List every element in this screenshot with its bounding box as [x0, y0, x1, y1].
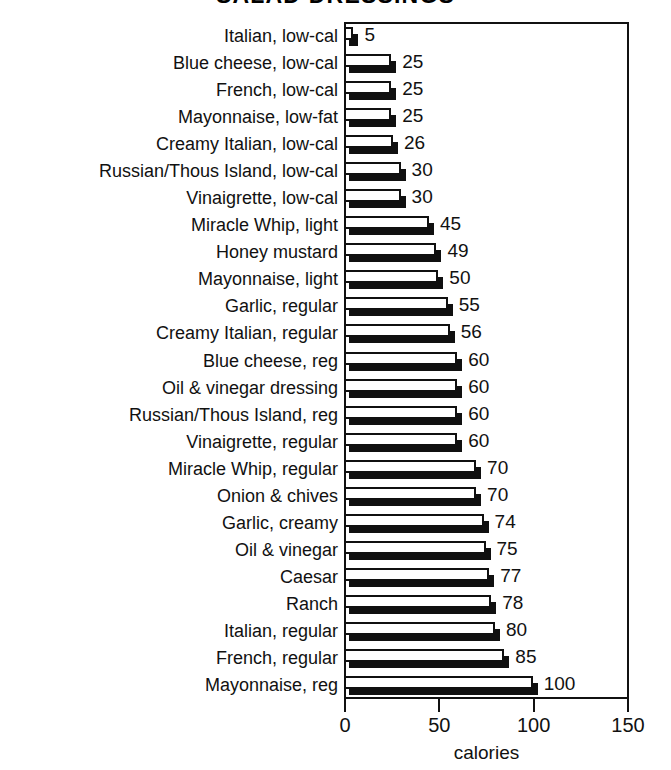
- chart-title: SALAD DRESSINGS: [0, 0, 671, 9]
- category-label: Italian, low-cal: [0, 27, 338, 45]
- bar-row: 60: [344, 406, 629, 427]
- bar-face: [344, 433, 457, 446]
- bar-face: [344, 406, 457, 419]
- bar-face: [344, 541, 486, 554]
- bar-value-label: 60: [468, 404, 489, 424]
- x-axis: calories 050100150: [344, 699, 629, 769]
- bar-row: 5: [344, 27, 629, 48]
- x-tick: [438, 699, 440, 712]
- bar-value-label: 85: [515, 647, 536, 667]
- category-label: Mayonnaise, reg: [0, 676, 338, 694]
- bar-row: 100: [344, 676, 629, 697]
- bar-face: [344, 514, 484, 527]
- bar-face: [344, 135, 393, 148]
- bar-face: [344, 108, 391, 121]
- bar-face: [344, 379, 457, 392]
- bar-face: [344, 676, 533, 689]
- x-tick: [344, 699, 346, 712]
- bars-layer: 5252525263030454950555660606060707074757…: [344, 22, 629, 699]
- x-axis-title: calories: [344, 742, 629, 764]
- bar-row: 60: [344, 352, 629, 373]
- bar-face: [344, 595, 491, 608]
- bar-face: [344, 27, 353, 40]
- bar-face: [344, 243, 436, 256]
- bar-row: 60: [344, 379, 629, 400]
- bar-row: 78: [344, 595, 629, 616]
- bar-face: [344, 568, 489, 581]
- category-axis-labels: Italian, low-calBlue cheese, low-calFren…: [0, 22, 338, 699]
- x-tick-label: 150: [611, 714, 644, 737]
- bar-row: 56: [344, 324, 629, 345]
- category-label: Ranch: [0, 595, 338, 613]
- bar-row: 30: [344, 162, 629, 183]
- category-label: Mayonnaise, light: [0, 270, 338, 288]
- category-label: Honey mustard: [0, 243, 338, 261]
- bar-value-label: 50: [449, 268, 470, 288]
- bar-row: 80: [344, 622, 629, 643]
- bar-row: 50: [344, 270, 629, 291]
- x-tick-label: 0: [339, 714, 350, 737]
- category-label: Onion & chives: [0, 487, 338, 505]
- category-label: Italian, regular: [0, 622, 338, 640]
- bar-face: [344, 649, 504, 662]
- bar-row: 70: [344, 460, 629, 481]
- bar-value-label: 25: [402, 79, 423, 99]
- bar-value-label: 26: [404, 133, 425, 153]
- category-label: Oil & vinegar: [0, 541, 338, 559]
- category-label: French, regular: [0, 649, 338, 667]
- category-label: Garlic, creamy: [0, 514, 338, 532]
- category-label: Vinaigrette, regular: [0, 433, 338, 451]
- bar-face: [344, 460, 476, 473]
- category-label: Creamy Italian, regular: [0, 324, 338, 342]
- bar-row: 60: [344, 433, 629, 454]
- bar-face: [344, 297, 448, 310]
- bar-row: 55: [344, 297, 629, 318]
- bar-row: 25: [344, 54, 629, 75]
- bar-face: [344, 324, 450, 337]
- bar-value-label: 78: [502, 593, 523, 613]
- category-label: Miracle Whip, light: [0, 216, 338, 234]
- bar-face: [344, 216, 429, 229]
- bar-value-label: 75: [497, 539, 518, 559]
- bar-value-label: 25: [402, 106, 423, 126]
- category-label: Russian/Thous Island, low-cal: [0, 162, 338, 180]
- bar-face: [344, 189, 401, 202]
- category-label: Caesar: [0, 568, 338, 586]
- bar-value-label: 100: [544, 674, 576, 694]
- bar-face: [344, 622, 495, 635]
- category-label: Creamy Italian, low-cal: [0, 135, 338, 153]
- bar-row: 30: [344, 189, 629, 210]
- bar-row: 25: [344, 108, 629, 129]
- category-label: Blue cheese, reg: [0, 352, 338, 370]
- x-tick-label: 100: [517, 714, 550, 737]
- x-tick: [627, 699, 629, 712]
- category-label: Vinaigrette, low-cal: [0, 189, 338, 207]
- bar-face: [344, 81, 391, 94]
- bar-value-label: 56: [461, 322, 482, 342]
- chart-page: SALAD DRESSINGS Italian, low-calBlue che…: [0, 0, 671, 770]
- bar-value-label: 49: [447, 241, 468, 261]
- x-tick-label: 50: [428, 714, 450, 737]
- bar-row: 70: [344, 487, 629, 508]
- bar-value-label: 60: [468, 350, 489, 370]
- bar-row: 25: [344, 81, 629, 102]
- bar-value-label: 30: [412, 187, 433, 207]
- category-label: Garlic, regular: [0, 297, 338, 315]
- bar-face: [344, 54, 391, 67]
- bar-value-label: 30: [412, 160, 433, 180]
- category-label: Oil & vinegar dressing: [0, 379, 338, 397]
- category-label: Blue cheese, low-cal: [0, 54, 338, 72]
- bar-value-label: 70: [487, 485, 508, 505]
- bar-value-label: 5: [364, 25, 375, 45]
- bar-face: [344, 162, 401, 175]
- bar-value-label: 45: [440, 214, 461, 234]
- bar-row: 26: [344, 135, 629, 156]
- bar-value-label: 60: [468, 431, 489, 451]
- bar-face: [344, 487, 476, 500]
- bar-value-label: 70: [487, 458, 508, 478]
- bar-value-label: 74: [495, 512, 516, 532]
- bar-value-label: 77: [500, 566, 521, 586]
- category-label: Miracle Whip, regular: [0, 460, 338, 478]
- bar-face: [344, 352, 457, 365]
- bar-row: 85: [344, 649, 629, 670]
